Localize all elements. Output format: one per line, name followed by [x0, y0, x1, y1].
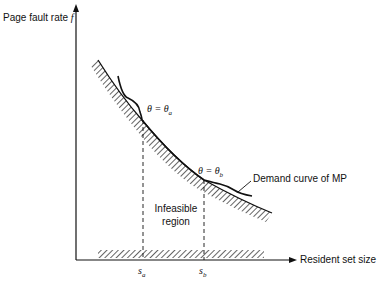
y-axis-symbol: f: [71, 12, 74, 23]
theta-b-label: θ = θb: [198, 166, 223, 179]
feasibility-boundary: [98, 60, 272, 213]
x-axis-arrow-icon: [289, 257, 297, 263]
demand-curve-label: Demand curve of MP: [253, 174, 347, 184]
s-a-tick-label: sa: [138, 266, 145, 279]
x-axis-label: Resident set size: [300, 255, 376, 265]
demand-curve-leader: [238, 181, 251, 192]
theta-a-label: θ = θa: [147, 104, 172, 117]
infeasible-region-label: Infeasible region: [153, 202, 199, 228]
feasibility-boundary-hatch: [91, 60, 272, 222]
diagram-canvas: [0, 0, 387, 284]
s-b-tick-label: sb: [199, 266, 206, 279]
y-axis-arrow-icon: [73, 4, 79, 12]
y-axis-label: Page fault rate f: [3, 13, 74, 23]
bottom-hatch-band: [98, 250, 264, 258]
